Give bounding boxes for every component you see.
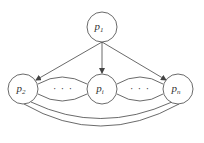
link-p2-pn (24, 102, 179, 126)
ellipsis-right: · · · (130, 83, 150, 94)
node-pi: pi (87, 74, 117, 104)
node-p1: p1 (87, 12, 117, 42)
process-ring-diagram: · · · · · · p1 p2 pi pn (0, 0, 204, 143)
ellipsis-left: · · · (53, 83, 73, 94)
edge-p1-to-pn (102, 42, 166, 80)
node-p2: p2 (8, 74, 38, 104)
node-pn: pn (163, 74, 193, 104)
edge-p1-to-p2 (36, 42, 102, 80)
